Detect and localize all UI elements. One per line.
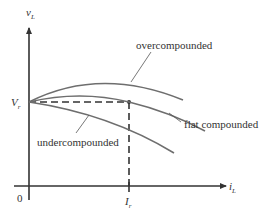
label-undercompounded: undercompounded	[37, 136, 119, 148]
y-axis-label: vL	[26, 6, 35, 21]
leader-undercompounded	[76, 115, 89, 133]
label-overcompounded: overcompounded	[136, 39, 213, 51]
x-axis-label: iL	[229, 180, 236, 195]
label-flat-compounded: flat compounded	[184, 118, 259, 130]
origin-label: 0	[17, 192, 23, 204]
compound-generator-diagram: overcompounded flat compounded undercomp…	[0, 0, 264, 216]
rated-voltage-label: Vr	[11, 96, 21, 111]
rated-current-label: Ir	[124, 195, 132, 210]
leader-flat-compounded	[169, 113, 181, 122]
curve-overcompounded	[29, 83, 183, 102]
leader-overcompounded	[131, 52, 151, 82]
